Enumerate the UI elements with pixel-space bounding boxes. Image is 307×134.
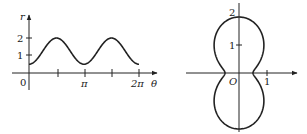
y-tick-2: 2 [17,33,23,44]
y-tick-1: 1 [17,50,23,61]
y-tick-2: 2 [229,7,235,18]
x-tick-1: 1 [264,76,270,87]
polar-graph: 2 1 O 1 [186,3,297,132]
origin-label: O [229,76,237,87]
r-curve [29,38,139,64]
cartesian-graph: r 2 1 0 π 2π θ [12,11,157,90]
theta-axis-label: θ [151,78,157,89]
x-tick-pi: π [80,78,88,89]
x-tick-2pi: 2π [130,78,144,89]
y-tick-1: 1 [229,40,235,51]
origin-label: 0 [20,77,26,88]
figure: r 2 1 0 π 2π θ 2 1 O 1 [0,0,307,134]
r-axis-label: r [20,11,26,22]
